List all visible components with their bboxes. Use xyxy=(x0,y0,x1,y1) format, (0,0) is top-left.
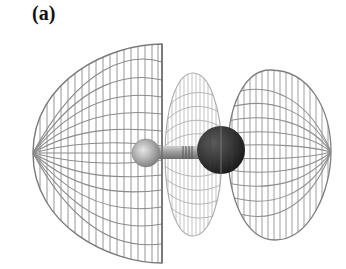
small-atom xyxy=(132,139,160,167)
orbital-figure xyxy=(0,0,346,269)
large-atom xyxy=(197,126,245,174)
bond xyxy=(158,146,202,159)
